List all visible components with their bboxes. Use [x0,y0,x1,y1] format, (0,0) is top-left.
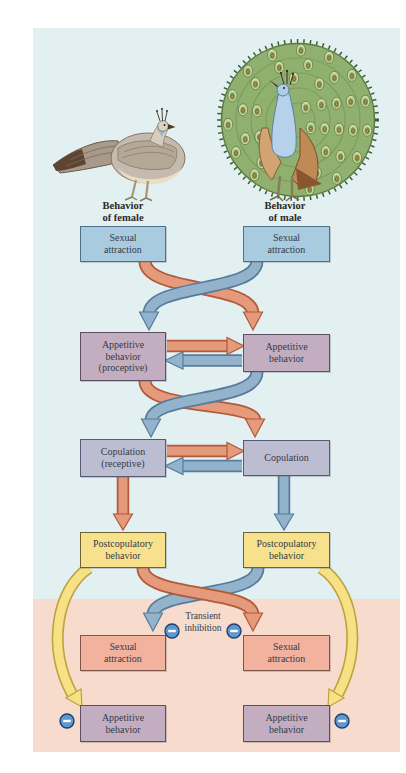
diagram-artwork [0,0,406,773]
box-male-sexual-attraction-inhibited: Sexual attraction [243,635,330,671]
box-female-postcopulatory-behavior: Postcopulatory behavior [80,532,166,568]
textbook-figure: Behavior of female Behavior of male Sexu… [0,0,406,773]
arrow-female-to-male-copulation-horizontal [167,443,244,460]
box-male-sexual-attraction: Sexual attraction [243,226,330,262]
peahen-icon [53,108,185,201]
box-female-sexual-attraction: Sexual attraction [80,226,166,262]
box-male-copulation: Copulation [243,440,330,476]
male-column-label: Behavior of male [248,200,322,224]
box-male-postcopulatory-behavior: Postcopulatory behavior [243,532,330,568]
box-male-appetitive-behavior: Appetitive behavior [243,334,330,372]
box-female-appetitive-behavior-inhibited: Appetitive behavior [80,705,166,742]
box-male-appetitive-behavior-inhibited: Appetitive behavior [243,705,330,742]
minus-icon [60,714,74,728]
transient-inhibition-label: Transient inhibition [172,611,234,635]
box-female-copulation: Copulation (receptive) [80,439,166,477]
arrow-male-copulation-to-postcopulatory [275,476,294,530]
arrow-female-to-male-appetitive-horizontal [167,338,244,355]
box-female-appetitive-behavior: Appetitive behavior (proceptive) [80,332,166,381]
arrow-female-copulation-to-postcopulatory [114,477,133,530]
arrow-male-to-female-copulation-horizontal [165,458,242,475]
female-column-label: Behavior of female [88,200,158,224]
box-female-sexual-attraction-inhibited: Sexual attraction [80,635,166,671]
peacock-icon [219,41,377,201]
minus-icon [335,714,349,728]
arrow-male-to-female-appetitive-horizontal [165,352,242,369]
